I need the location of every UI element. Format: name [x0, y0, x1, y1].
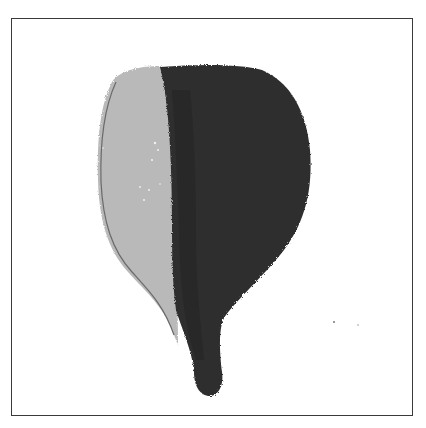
bulb-illustration [0, 0, 426, 428]
light-half-shape [98, 66, 178, 345]
stray-dot [357, 324, 359, 326]
stray-dot [333, 321, 335, 323]
